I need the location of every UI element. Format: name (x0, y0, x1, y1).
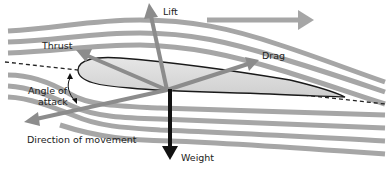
label-lift: Lift (163, 6, 178, 17)
label-thrust: Thrust (42, 40, 72, 51)
weight-vector (162, 89, 178, 160)
label-angle-of-attack-2: attack (38, 96, 68, 107)
label-weight: Weight (181, 152, 214, 163)
label-direction-of-movement: Direction of movement (27, 134, 137, 145)
label-drag: Drag (262, 50, 285, 61)
label-angle-of-attack-1: Angle of (28, 85, 67, 96)
angle-of-attack-arc (67, 73, 77, 104)
